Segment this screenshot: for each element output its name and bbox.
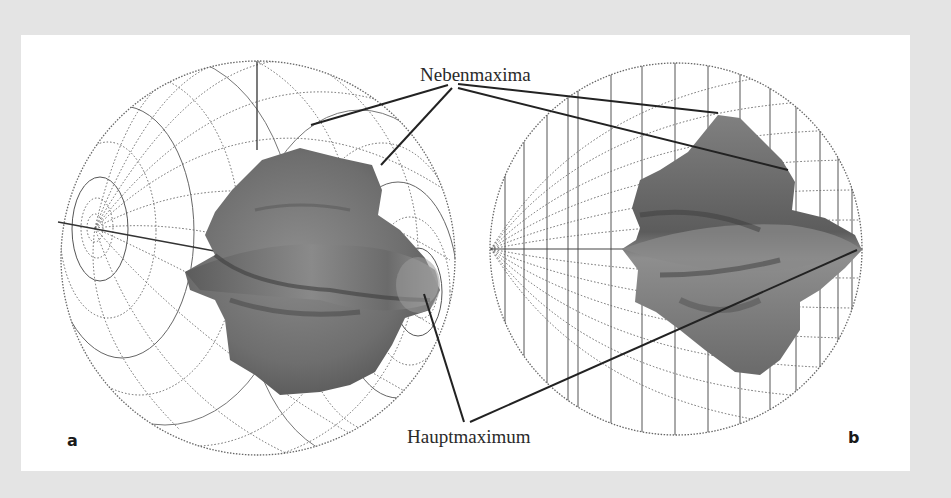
leader-nebenmaxima-a2 <box>381 88 452 165</box>
leader-nebenmaxima-a1 <box>311 85 448 125</box>
panel-label-b: b <box>848 428 859 447</box>
panel-label-a: a <box>67 431 78 450</box>
leader-hauptmaximum-a <box>424 294 464 422</box>
radiation-pattern-b <box>622 115 862 375</box>
callout-hauptmaximum: Hauptmaximum <box>407 426 530 448</box>
callout-nebenmaxima: Nebenmaxima <box>420 64 531 86</box>
radiation-pattern-a <box>185 148 440 395</box>
